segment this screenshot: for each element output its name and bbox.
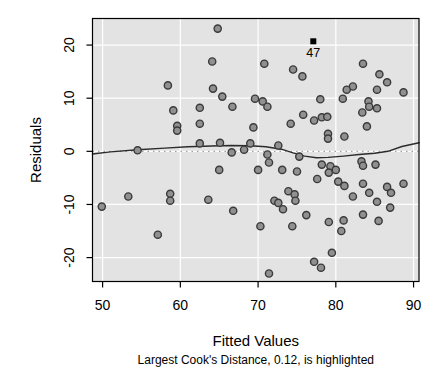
data-point — [349, 193, 356, 200]
data-point — [363, 123, 370, 130]
data-point — [375, 217, 382, 224]
data-point — [325, 218, 332, 225]
data-point — [241, 146, 248, 153]
data-point — [196, 104, 203, 111]
data-point — [154, 231, 161, 238]
data-point — [324, 135, 331, 142]
data-point — [359, 162, 366, 169]
data-point — [325, 169, 332, 176]
y-axis: -20-1001020 — [61, 37, 93, 268]
data-point — [400, 180, 407, 187]
data-point — [387, 204, 394, 211]
data-point — [209, 58, 216, 65]
y-tick-label: -20 — [61, 247, 77, 267]
data-point — [265, 270, 272, 277]
data-point — [279, 166, 286, 173]
data-point — [279, 206, 286, 213]
x-tick-label: 80 — [328, 297, 344, 313]
subtitle: Largest Cook's Distance, 0.12, is highli… — [138, 353, 374, 367]
y-tick-label: 10 — [61, 90, 77, 106]
data-point — [265, 159, 272, 166]
data-point — [359, 180, 366, 187]
data-point — [250, 124, 257, 131]
data-point — [257, 223, 264, 230]
data-point — [196, 140, 203, 147]
data-point — [318, 161, 325, 168]
highlighted-point-label: 47 — [306, 46, 320, 60]
data-point — [366, 189, 373, 196]
data-point — [264, 151, 271, 158]
data-point — [287, 120, 294, 127]
data-point — [341, 182, 348, 189]
data-point — [261, 60, 268, 67]
data-point — [373, 105, 380, 112]
data-point — [292, 197, 299, 204]
x-tick-label: 50 — [95, 297, 111, 313]
data-point — [275, 199, 282, 206]
data-point — [311, 117, 318, 124]
x-tick-label: 90 — [406, 297, 422, 313]
data-point — [373, 198, 380, 205]
data-point — [343, 86, 350, 93]
data-point — [290, 66, 297, 73]
data-point — [174, 127, 181, 134]
data-point — [98, 203, 105, 210]
data-point — [340, 217, 347, 224]
data-point — [332, 166, 339, 173]
data-point — [311, 258, 318, 265]
data-point — [359, 109, 366, 116]
data-point — [384, 79, 391, 86]
y-axis-title: Residuals — [27, 117, 44, 183]
data-point — [324, 113, 331, 120]
data-point — [255, 166, 262, 173]
data-point — [209, 85, 216, 92]
data-point — [299, 73, 306, 80]
data-point — [216, 166, 223, 173]
data-point — [205, 196, 212, 203]
data-point — [289, 223, 296, 230]
highlighted-point — [310, 38, 316, 44]
y-tick-label: 0 — [61, 147, 77, 155]
data-point — [214, 25, 221, 32]
data-point — [167, 190, 174, 197]
data-point — [125, 193, 132, 200]
data-point — [400, 89, 407, 96]
x-axis: 5060708090 — [95, 282, 422, 313]
data-point — [341, 133, 348, 140]
data-point — [229, 103, 236, 110]
y-tick-label: -10 — [61, 194, 77, 214]
scatter-plot: 47 5060708090 -20-1001020 Residuals Fitt… — [0, 0, 439, 377]
data-point — [314, 175, 321, 182]
data-point — [264, 103, 271, 110]
data-point — [376, 71, 383, 78]
x-tick-label: 60 — [173, 297, 189, 313]
y-tick-label: 20 — [61, 37, 77, 53]
data-point — [293, 168, 300, 175]
x-tick-label: 70 — [250, 297, 266, 313]
data-point — [196, 120, 203, 127]
data-point — [338, 227, 345, 234]
data-point — [219, 93, 226, 100]
data-point — [300, 111, 307, 118]
data-point — [247, 140, 254, 147]
data-point — [359, 60, 366, 67]
data-point — [167, 197, 174, 204]
residual-plot-figure: 47 5060708090 -20-1001020 Residuals Fitt… — [0, 0, 439, 377]
data-point — [317, 96, 324, 103]
data-point — [251, 95, 258, 102]
data-point — [317, 264, 324, 271]
data-point — [228, 149, 235, 156]
x-axis-title: Fitted Values — [213, 332, 299, 349]
data-point — [373, 86, 380, 93]
data-point — [359, 211, 366, 218]
data-point — [296, 153, 303, 160]
data-point — [170, 107, 177, 114]
data-point — [328, 249, 335, 256]
data-point — [366, 103, 373, 110]
data-point — [164, 82, 171, 89]
data-point — [230, 207, 237, 214]
data-point — [216, 139, 223, 146]
data-point — [303, 212, 310, 219]
data-point — [275, 142, 282, 149]
data-point — [372, 161, 379, 168]
